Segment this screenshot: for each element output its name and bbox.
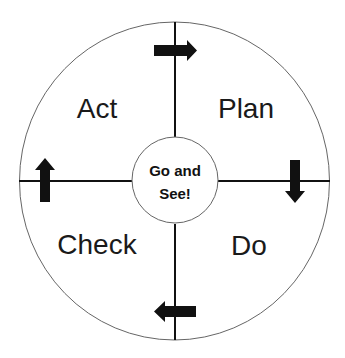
- pdca-diagram: Act Plan Check Do Go and See!: [0, 0, 345, 358]
- center-label-line2: See!: [159, 185, 191, 202]
- label-plan: Plan: [218, 93, 274, 124]
- label-do: Do: [231, 230, 267, 261]
- center-circle: [132, 137, 218, 223]
- label-act: Act: [77, 93, 118, 124]
- label-check: Check: [57, 229, 137, 260]
- center-label-line1: Go and: [149, 162, 201, 179]
